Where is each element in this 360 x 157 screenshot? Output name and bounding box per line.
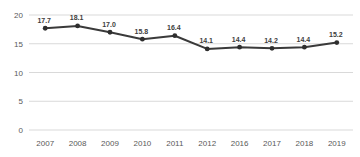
y-tick-label: 20	[14, 11, 23, 20]
data-point-marker	[172, 33, 177, 38]
data-label: 15.8	[135, 28, 149, 35]
x-tick-label: 2017	[263, 139, 281, 148]
y-tick-label: 15	[14, 40, 23, 49]
data-point-marker	[237, 45, 242, 50]
y-tick-label: 10	[14, 69, 23, 78]
data-point-marker	[334, 40, 339, 45]
data-point-marker	[270, 46, 275, 51]
data-label: 17.7	[37, 17, 51, 24]
x-tick-label: 2019	[328, 139, 346, 148]
data-point-marker	[140, 37, 145, 42]
x-tick-label: 2009	[101, 139, 119, 148]
data-label: 15.2	[329, 31, 343, 38]
x-tick-label: 2010	[134, 139, 152, 148]
data-label: 14.1	[199, 37, 213, 44]
data-label: 16.4	[167, 24, 181, 31]
x-tick-label: 2012	[198, 139, 216, 148]
x-tick-label: 2011	[166, 139, 184, 148]
data-point-marker	[302, 45, 307, 50]
data-label: 14.4	[232, 36, 246, 43]
x-tick-label: 2018	[296, 139, 314, 148]
line-chart: 0510152020072008200920102011201220162017…	[0, 0, 360, 157]
data-label: 14.2	[264, 37, 278, 44]
y-tick-label: 5	[19, 97, 24, 106]
data-point-marker	[108, 30, 113, 35]
x-tick-label: 2016	[231, 139, 249, 148]
data-point-marker	[205, 47, 210, 52]
data-point-marker	[75, 24, 80, 29]
data-point-marker	[43, 26, 48, 31]
data-label: 14.4	[297, 36, 311, 43]
x-tick-label: 2008	[69, 139, 87, 148]
x-tick-label: 2007	[36, 139, 54, 148]
data-label: 18.1	[70, 14, 84, 21]
chart-svg: 0510152020072008200920102011201220162017…	[0, 0, 360, 157]
y-tick-label: 0	[19, 126, 24, 135]
data-label: 17.0	[102, 21, 116, 28]
